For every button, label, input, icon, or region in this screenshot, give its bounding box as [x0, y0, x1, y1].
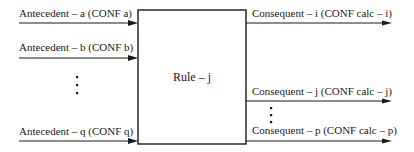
consequent-i: Consequent – i (CONF calc – i) [246, 7, 392, 26]
antecedent-b-label: Antecedent – b (CONF b) [19, 41, 134, 54]
arrowhead-icon [128, 55, 138, 61]
vertical-ellipsis-icon [270, 107, 272, 123]
antecedent-a-label: Antecedent – a (CONF a) [19, 7, 132, 20]
antecedent-q-label: Antecedent – q (CONF q) [19, 125, 134, 138]
antecedent-b: Antecedent – b (CONF b) [19, 41, 138, 61]
rule-label: Rule – j [173, 70, 211, 84]
arrowhead-icon [382, 99, 392, 104]
consequent-p: Consequent – p (CONF calc – p) [246, 124, 397, 144]
arrowhead-icon [382, 139, 392, 144]
arrowhead-icon [382, 21, 392, 26]
consequent-p-label: Consequent – p (CONF calc – p) [252, 124, 397, 137]
vertical-ellipsis-icon [76, 76, 78, 94]
antecedent-a: Antecedent – a (CONF a) [19, 7, 138, 26]
arrowhead-icon [128, 20, 138, 26]
arrowhead-icon [128, 138, 138, 144]
consequent-j: Consequent – j (CONF calc – j) [246, 85, 392, 104]
antecedent-q: Antecedent – q (CONF q) [19, 125, 138, 144]
consequent-i-label: Consequent – i (CONF calc – i) [252, 7, 392, 20]
rule-box: Rule – j [138, 10, 246, 144]
rule-diagram: Rule – j Antecedent – a (CONF a) Anteced… [0, 0, 414, 152]
consequent-j-label: Consequent – j (CONF calc – j) [252, 85, 392, 98]
